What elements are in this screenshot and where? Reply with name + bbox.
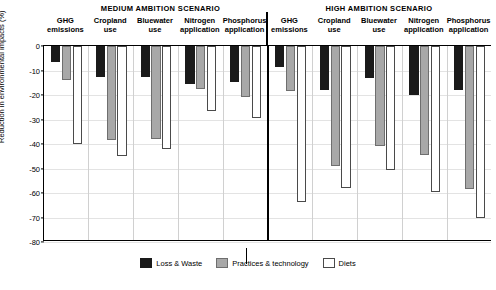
scenario-divider	[267, 46, 268, 241]
bar	[51, 46, 60, 62]
legend-label: Diets	[339, 259, 356, 268]
bar	[375, 46, 384, 146]
scenario-title-medium: MEDIUM AMBITION SCENARIO	[58, 4, 263, 13]
group-separator	[312, 46, 313, 241]
bar	[409, 46, 418, 95]
legend-item: Practices & technology	[216, 258, 308, 268]
y-tick-label: -40	[29, 140, 40, 149]
y-tick-mark	[41, 217, 45, 218]
bar	[162, 46, 171, 149]
bar	[341, 46, 350, 188]
legend-swatch	[323, 258, 335, 268]
bar	[297, 46, 306, 202]
group-separator	[447, 46, 448, 241]
y-tick-label: -60	[29, 189, 40, 198]
bar	[207, 46, 216, 111]
bar	[476, 46, 485, 218]
scenario-divider-top	[266, 12, 267, 45]
bar	[465, 46, 474, 189]
gridline	[44, 242, 491, 243]
bar	[386, 46, 395, 170]
y-tick-label: -50	[29, 164, 40, 173]
y-tick-mark	[41, 241, 45, 242]
y-tick-label: -80	[29, 238, 40, 247]
scenario-title-high: HIGH AMBITION SCENARIO	[268, 4, 490, 13]
group-separator	[133, 46, 134, 241]
bar	[141, 46, 150, 77]
y-tick-mark	[41, 45, 45, 46]
y-tick-label: -10	[29, 66, 40, 75]
bar	[196, 46, 205, 89]
bar	[252, 46, 261, 118]
y-tick-mark	[41, 70, 45, 71]
bar	[230, 46, 239, 82]
group-separator	[178, 46, 179, 241]
bar	[275, 46, 284, 67]
chart-figure: MEDIUM AMBITION SCENARIO HIGH AMBITION S…	[0, 0, 496, 290]
group-separator	[223, 46, 224, 241]
legend-swatch	[216, 258, 228, 268]
y-tick-mark	[41, 168, 45, 169]
group-separator	[357, 46, 358, 241]
legend-label: Practices & technology	[232, 259, 308, 268]
y-tick-label: 0	[36, 42, 40, 51]
group-separator	[402, 46, 403, 241]
bar	[107, 46, 116, 140]
bar	[62, 46, 71, 80]
group-separator	[88, 46, 89, 241]
bar	[185, 46, 194, 84]
plot-area: 0-10-20-30-40-50-60-70-80	[43, 45, 491, 241]
y-tick-mark	[41, 94, 45, 95]
y-tick-label: -20	[29, 91, 40, 100]
bar	[431, 46, 440, 192]
y-tick-label: -30	[29, 115, 40, 124]
y-tick-mark	[41, 119, 45, 120]
y-tick-mark	[41, 192, 45, 193]
bar	[420, 46, 429, 155]
bar	[286, 46, 295, 91]
bar	[96, 46, 105, 77]
bar	[365, 46, 374, 78]
bar	[454, 46, 463, 90]
chart-legend: Loss & WastePractices & technologyDiets	[0, 258, 496, 268]
legend-label: Loss & Waste	[156, 259, 202, 268]
y-axis-label: Reduction in environmental impacts (%)	[0, 10, 6, 143]
bar	[73, 46, 82, 144]
y-tick-mark	[41, 143, 45, 144]
bar	[241, 46, 250, 97]
y-tick-label: -70	[29, 213, 40, 222]
bar	[151, 46, 160, 139]
legend-item: Diets	[323, 258, 356, 268]
bar	[331, 46, 340, 166]
legend-swatch	[140, 258, 152, 268]
bar	[320, 46, 329, 90]
category-label: Phosphorus application	[440, 16, 496, 34]
legend-item: Loss & Waste	[140, 258, 202, 268]
bar	[117, 46, 126, 156]
